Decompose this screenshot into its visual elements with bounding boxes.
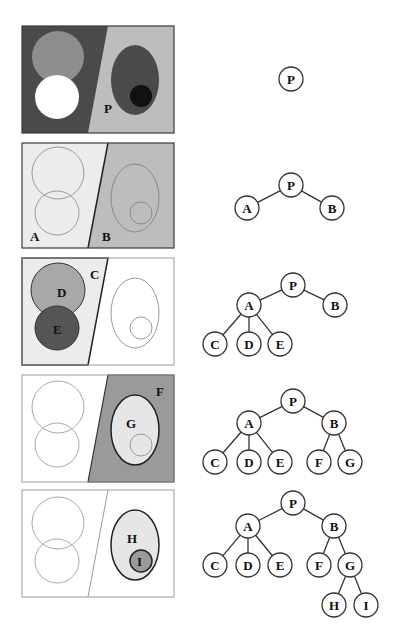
node-label: A <box>244 416 254 431</box>
panel-4-label-g: G <box>126 416 136 431</box>
tree-node-d: D <box>236 553 260 577</box>
tree-edge-g-h <box>338 576 345 594</box>
tree-node-b: B <box>322 411 346 435</box>
node-label: P <box>289 496 297 511</box>
tree-edge-a-e <box>256 314 272 334</box>
tree-edge-g-i <box>354 576 361 594</box>
node-label: B <box>330 519 339 534</box>
node-label: E <box>276 558 285 573</box>
panel-2-label-b: B <box>102 229 111 244</box>
node-label: P <box>289 278 297 293</box>
tree-edge-a-c <box>223 535 240 556</box>
tree-node-e: E <box>268 450 292 474</box>
tree-node-c: C <box>203 332 227 356</box>
node-label: B <box>331 298 340 313</box>
tree-edge-b-f <box>323 537 329 554</box>
tree-edge-a-e <box>256 432 272 452</box>
tree-node-g: G <box>338 553 362 577</box>
lower-circle-white <box>35 75 79 119</box>
tree-node-i: I <box>354 593 378 617</box>
tree-edge-b-f <box>323 434 329 451</box>
tree-3: PABCDE <box>203 273 347 356</box>
image-panel-3: C D E <box>22 258 174 365</box>
tree-edge-a-e <box>256 535 273 555</box>
node-label: C <box>210 558 219 573</box>
tree-edge-p-b <box>304 290 324 300</box>
tree-node-a: A <box>237 411 261 435</box>
node-label: E <box>276 337 285 352</box>
tree-edge-p-a <box>260 290 282 300</box>
tree-edge-p-b <box>303 509 323 520</box>
node-label: I <box>363 598 368 613</box>
tree-node-b: B <box>320 196 344 220</box>
panel-2-label-a: A <box>30 229 40 244</box>
node-label: D <box>244 337 253 352</box>
node-label: F <box>315 558 323 573</box>
node-label: H <box>329 598 339 613</box>
image-panel-4: F G <box>22 375 174 482</box>
tree-edge-a-c <box>223 432 241 453</box>
tree-node-f: F <box>307 450 331 474</box>
node-label: P <box>287 178 295 193</box>
tree-node-e: E <box>268 553 292 577</box>
figure-canvas: P A B C D E F G <box>0 0 399 641</box>
tree-2: PAB <box>235 173 344 220</box>
node-label: C <box>210 455 219 470</box>
node-label: G <box>345 455 355 470</box>
node-label: D <box>243 558 252 573</box>
tree-1: P <box>279 67 303 91</box>
node-label: A <box>242 201 252 216</box>
region-trees: PPABPABCDEPABCDEFGPABCDEFGHI <box>203 67 378 617</box>
tree-node-c: C <box>203 450 227 474</box>
node-label: B <box>330 416 339 431</box>
tree-edge-p-b <box>301 191 321 202</box>
tree-node-b: B <box>323 293 347 317</box>
image-panel-5: H I <box>22 490 174 597</box>
tree-node-d: D <box>237 450 261 474</box>
node-label: C <box>210 337 219 352</box>
panel-5-label-i: I <box>137 554 142 569</box>
tree-5: PABCDEFGHI <box>203 491 378 617</box>
tree-node-p: P <box>279 173 303 197</box>
caption-cropped <box>0 634 399 641</box>
node-label: F <box>315 455 323 470</box>
tree-node-p: P <box>279 67 303 91</box>
tree-node-f: F <box>307 553 331 577</box>
node-label: A <box>244 298 254 313</box>
tree-node-g: G <box>338 450 362 474</box>
tree-node-a: A <box>237 293 261 317</box>
tree-edge-p-a <box>260 406 283 417</box>
tree-node-h: H <box>322 593 346 617</box>
tree-edge-b-g <box>339 434 346 451</box>
image-panel-2: A B <box>22 143 174 248</box>
tree-edge-b-g <box>339 537 346 554</box>
image-panel-1: P <box>22 26 174 133</box>
node-label: B <box>328 201 337 216</box>
tree-edge-p-a <box>258 191 281 203</box>
tree-edge-p-b <box>304 407 324 418</box>
tree-node-c: C <box>203 553 227 577</box>
panel-3-label-e: E <box>53 322 62 337</box>
tree-node-a: A <box>236 514 260 538</box>
node-label: A <box>243 519 253 534</box>
tree-edge-p-a <box>259 508 283 520</box>
node-label: D <box>244 455 253 470</box>
small-circle-black <box>130 85 152 107</box>
panel-5-label-h: H <box>127 531 137 546</box>
node-label: P <box>289 394 297 409</box>
panel-1-label-p: P <box>104 101 112 116</box>
tree-node-p: P <box>281 389 305 413</box>
node-label: G <box>345 558 355 573</box>
panel-3-label-c: C <box>90 267 99 282</box>
tree-node-p: P <box>281 273 305 297</box>
panel-3-label-d: D <box>57 285 66 300</box>
node-label: P <box>287 72 295 87</box>
tree-node-p: P <box>281 491 305 515</box>
tree-node-e: E <box>268 332 292 356</box>
tree-node-d: D <box>237 332 261 356</box>
tree-edge-a-c <box>223 314 241 335</box>
node-label: E <box>276 455 285 470</box>
tree-node-b: B <box>322 514 346 538</box>
tree-node-a: A <box>235 196 259 220</box>
panel-4-label-f: F <box>156 384 164 399</box>
